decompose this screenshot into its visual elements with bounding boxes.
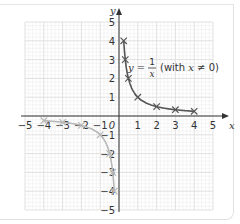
y-tick-label: 4 — [109, 36, 115, 47]
y-tick-label: −1 — [100, 130, 115, 141]
y-tick-label: −4 — [100, 186, 115, 197]
x-tick-label: −5 — [18, 120, 33, 131]
y-tick-label: 3 — [109, 55, 115, 66]
y-tick-label: 2 — [109, 73, 115, 84]
x-tick-label: 5 — [210, 120, 216, 131]
y-tick-label: 5 — [109, 17, 115, 28]
x-axis-arrow-icon — [222, 113, 229, 119]
equation-condition: (with x ≠ 0) — [160, 62, 219, 73]
y-axis-label: y — [109, 5, 116, 16]
equation-lhs: y = — [127, 62, 145, 73]
x-tick-label: 2 — [153, 120, 159, 131]
equation-denominator: x — [149, 69, 154, 79]
x-tick-label: 4 — [191, 120, 197, 131]
y-tick-label: 1 — [109, 92, 115, 103]
x-tick-label: 3 — [172, 120, 178, 131]
x-tick-label: 1 — [135, 120, 141, 131]
y-tick-label: −5 — [100, 205, 115, 216]
origin-label: 0 — [109, 120, 115, 131]
y-axis-arrow-icon — [116, 8, 122, 15]
reciprocal-graph: xy −5−4−3−2−112345−5−4−3−2−1123450 y = 1… — [0, 0, 240, 224]
x-axis-label: x — [229, 120, 235, 131]
equation-numerator: 1 — [149, 57, 155, 67]
y-tick-label: −2 — [100, 149, 115, 160]
